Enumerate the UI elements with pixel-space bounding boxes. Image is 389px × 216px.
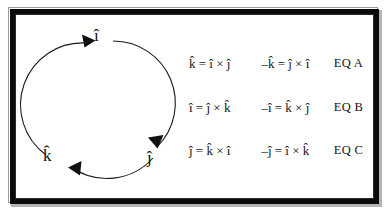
cycle-node-label-j: ĵ (147, 149, 152, 166)
equation-negative-form: –ĵ = î × k̂ (261, 144, 333, 157)
equation-positive-form: k̂ = î × ĵ (184, 57, 261, 70)
equation-row: î = ĵ × k̂ –î = k̂ × ĵ EQ B (184, 95, 373, 119)
equation-tag: EQ C (334, 144, 373, 157)
equation-list: k̂ = î × ĵ –k̂ = ĵ × î EQ A î = ĵ × k̂ –… (184, 37, 373, 179)
cycle-arc-svg (16, 15, 186, 198)
arc-i-to-j (113, 41, 175, 147)
cycle-node-label-k: k̂ (43, 147, 52, 164)
arc-k-to-i (21, 43, 86, 155)
figure-root: î ĵ k̂ k̂ = î × ĵ –k̂ = ĵ × î EQ A î = ĵ… (0, 0, 389, 216)
figure-canvas: î ĵ k̂ k̂ = î × ĵ –k̂ = ĵ × î EQ A î = ĵ… (16, 15, 373, 198)
equation-positive-form: ĵ = k̂ × î (184, 144, 261, 157)
equation-negative-form: –k̂ = ĵ × î (261, 57, 333, 70)
cycle-node-label-i: î (94, 27, 99, 44)
equation-row: ĵ = k̂ × î –ĵ = î × k̂ EQ C (184, 138, 373, 162)
equation-negative-form: –î = k̂ × ĵ (261, 101, 333, 114)
equation-positive-form: î = ĵ × k̂ (184, 101, 261, 114)
equation-row: k̂ = î × ĵ –k̂ = ĵ × î EQ A (184, 51, 373, 75)
equation-tag: EQ B (334, 101, 373, 114)
equation-tag: EQ A (334, 57, 373, 70)
arc-j-to-k (71, 158, 153, 178)
cycle-diagram: î ĵ k̂ (16, 15, 186, 198)
arrowhead-to-k (68, 161, 82, 176)
